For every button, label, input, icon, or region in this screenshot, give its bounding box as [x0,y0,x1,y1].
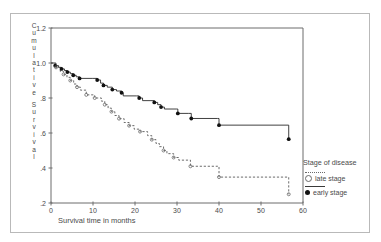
y-title-letter: v [28,81,40,88]
y-title-letter: u [28,29,40,36]
y-title-letter: i [28,74,40,81]
legend-label-late-stage: late stage [315,175,345,182]
legend-item-late-stage: late stage [303,175,369,182]
y-title-letter: a [28,59,40,66]
y-title-letter: l [28,52,40,59]
legend-line-sample-solid [305,184,325,189]
y-title-letter: m [28,37,40,44]
legend: Stage of disease late stage early stage [303,158,369,198]
legend-row-late-stage: late stage [303,170,369,182]
y-title-letter: v [28,138,40,145]
y-title-letter: r [28,116,40,123]
y-title-letter: l [28,153,40,160]
legend-row-early-stage: early stage [303,184,369,196]
y-title-letter: e [28,89,40,96]
y-title-letter: u [28,44,40,51]
x-axis-title: Survival time in months [58,216,136,225]
legend-line-sample-dotted [305,170,325,175]
y-title-letter: t [28,66,40,73]
y-title-letter: C [28,22,40,29]
filled-circle-icon [305,190,310,195]
y-title-letter: i [28,131,40,138]
legend-title: Stage of disease [303,158,369,167]
y-title-letter: S [28,101,40,108]
y-title-letter: a [28,146,40,153]
y-axis-title: CumulativeSurvival [28,22,40,160]
y-title-letter: u [28,108,40,115]
figure-border [10,13,370,233]
legend-label-early-stage: early stage [313,189,347,196]
y-title-letter: v [28,123,40,130]
open-circle-icon [305,175,312,182]
legend-item-early-stage: early stage [303,189,369,196]
